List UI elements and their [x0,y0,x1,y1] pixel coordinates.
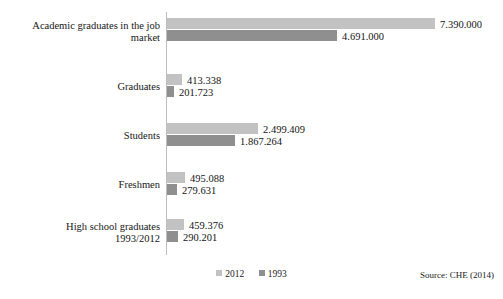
bar-2012[interactable] [167,219,184,230]
bar-value-1993: 1.867.264 [240,136,282,147]
legend-label-2012: 2012 [225,269,244,279]
legend-swatch-2012-icon [216,270,222,276]
category-label-line2: 1993/2012 [6,233,160,245]
bar-value-1993: 4.691.000 [342,31,384,42]
bar-value-2012: 495.088 [190,173,224,184]
category-label-line1: Students [124,130,160,141]
legend-item-1993[interactable]: 1993 [259,268,287,279]
chart-row: Graduates 413.338 201.723 [0,74,503,106]
bar-value-2012: 413.338 [187,75,221,86]
chart-row: Students 2.499.409 1.867.264 [0,123,503,155]
bar-2012[interactable] [167,123,258,134]
plot-area: Academic graduates in the job market 7.3… [0,0,503,262]
category-label-line2: market [6,32,160,44]
bar-1993[interactable] [167,135,235,146]
legend-label-1993: 1993 [268,269,287,279]
category-label: Students [6,130,166,142]
bar-1993[interactable] [167,30,337,41]
category-label: High school graduates 1993/2012 [6,221,166,244]
chart-row: Academic graduates in the job market 7.3… [0,18,503,50]
chart-row: High school graduates 1993/2012 459.376 … [0,219,503,251]
bar-value-1993: 279.631 [182,185,216,196]
bar-value-2012: 459.376 [189,220,223,231]
bar-value-1993: 201.723 [179,87,213,98]
bar-1993[interactable] [167,86,174,97]
bar-1993[interactable] [167,184,177,195]
category-label: Freshmen [6,179,166,191]
bar-value-1993: 290.201 [183,232,217,243]
legend-swatch-1993-icon [259,270,265,276]
bar-2012[interactable] [167,74,182,85]
bar-value-2012: 2.499.409 [263,124,305,135]
bar-2012[interactable] [167,18,435,29]
category-label: Academic graduates in the job market [6,20,166,43]
category-label-line1: High school graduates [66,221,160,232]
category-label: Graduates [6,81,166,93]
category-label-line1: Academic graduates in the job [32,20,160,31]
chart-row: Freshmen 495.088 279.631 [0,172,503,204]
bar-chart: Academic graduates in the job market 7.3… [0,0,503,299]
category-label-line1: Graduates [117,81,160,92]
bar-value-2012: 7.390.000 [440,19,482,30]
bar-2012[interactable] [167,172,185,183]
category-label-line1: Freshmen [119,179,160,190]
legend-item-2012[interactable]: 2012 [216,268,244,279]
source-note: Source: CHE (2014) [420,270,494,280]
bar-1993[interactable] [167,231,178,242]
